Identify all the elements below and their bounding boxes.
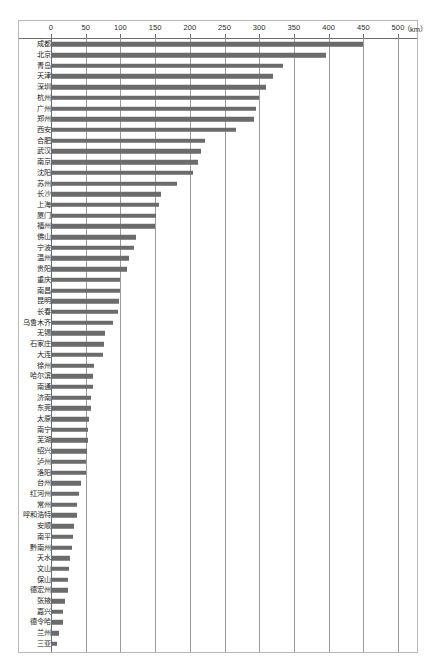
category-label: 郑州 bbox=[37, 116, 51, 123]
bar bbox=[51, 460, 86, 464]
category-label: 佛山 bbox=[37, 233, 51, 240]
category-label: 沈阳 bbox=[37, 169, 51, 176]
x-tickmark-250 bbox=[225, 34, 226, 38]
x-tickmark-200 bbox=[190, 34, 191, 38]
bar bbox=[51, 224, 155, 228]
category-label: 南京 bbox=[37, 159, 51, 166]
chart-row: 保山 bbox=[19, 574, 417, 585]
category-label: 杭州 bbox=[37, 94, 51, 101]
plot-area: 成都北京青岛天津深圳杭州广州郑州西安合肥武汉南京沈阳苏州长沙上海厦门福州佛山宁波… bbox=[19, 38, 417, 652]
x-tickmark-400 bbox=[329, 34, 330, 38]
chart-row: 乌鲁木齐 bbox=[19, 317, 417, 328]
x-tick-label-150: 150 bbox=[149, 23, 162, 32]
bar bbox=[51, 556, 70, 560]
bar bbox=[51, 374, 93, 378]
x-tickmark-0 bbox=[51, 34, 52, 38]
category-label: 无锡 bbox=[37, 330, 51, 337]
chart-row: 台州 bbox=[19, 478, 417, 489]
chart-row: 南宁 bbox=[19, 424, 417, 435]
chart-row: 武汉 bbox=[19, 146, 417, 157]
chart-row: 苏州 bbox=[19, 178, 417, 189]
chart-row: 郑州 bbox=[19, 114, 417, 125]
bar bbox=[51, 470, 86, 474]
category-label: 长春 bbox=[37, 308, 51, 315]
bar bbox=[51, 481, 81, 485]
bar bbox=[51, 128, 236, 132]
category-label: 深圳 bbox=[37, 84, 51, 91]
chart-row: 重庆 bbox=[19, 275, 417, 286]
chart-row: 德宏州 bbox=[19, 585, 417, 596]
bar bbox=[51, 117, 254, 121]
chart-row: 杭州 bbox=[19, 93, 417, 104]
category-label: 哈尔滨 bbox=[30, 373, 51, 380]
bar bbox=[51, 64, 283, 68]
chart-row: 大连 bbox=[19, 349, 417, 360]
category-label: 南平 bbox=[37, 533, 51, 540]
x-tick-label-300: 300 bbox=[253, 23, 266, 32]
x-tickmark-100 bbox=[120, 34, 121, 38]
category-label: 红河州 bbox=[30, 490, 51, 497]
bar bbox=[51, 406, 91, 410]
bar bbox=[51, 213, 156, 217]
bar bbox=[51, 53, 326, 57]
category-label: 北京 bbox=[37, 51, 51, 58]
bar bbox=[51, 235, 136, 239]
x-tick-label-200: 200 bbox=[183, 23, 196, 32]
chart-row: 南京 bbox=[19, 157, 417, 168]
category-label: 南昌 bbox=[37, 287, 51, 294]
chart-row: 合肥 bbox=[19, 135, 417, 146]
bar bbox=[51, 438, 88, 442]
category-label: 安顺 bbox=[37, 523, 51, 530]
category-label: 大连 bbox=[37, 351, 51, 358]
bar bbox=[51, 599, 65, 603]
category-label: 台州 bbox=[37, 480, 51, 487]
x-axis-tick-labels: 050100150200250300350400450500（km） bbox=[19, 21, 417, 38]
bar bbox=[51, 42, 363, 46]
chart-row: 石家庄 bbox=[19, 339, 417, 350]
bar bbox=[51, 363, 94, 367]
bar bbox=[51, 395, 91, 399]
bar bbox=[51, 74, 273, 78]
chart-row: 东莞 bbox=[19, 403, 417, 414]
category-label: 南通 bbox=[37, 383, 51, 390]
category-label: 石家庄 bbox=[30, 341, 51, 348]
bar bbox=[51, 331, 105, 335]
chart-row: 上海 bbox=[19, 200, 417, 211]
x-tick-label-50: 50 bbox=[81, 23, 90, 32]
category-label: 绍兴 bbox=[37, 448, 51, 455]
chart-row: 呼和浩特 bbox=[19, 510, 417, 521]
category-label: 武汉 bbox=[37, 148, 51, 155]
category-label: 德令哈 bbox=[30, 619, 51, 626]
x-tick-label-450: 450 bbox=[357, 23, 370, 32]
bar bbox=[51, 535, 73, 539]
x-tick-label-100: 100 bbox=[114, 23, 127, 32]
chart-frame: 050100150200250300350400450500（km） 成都北京青… bbox=[18, 20, 418, 653]
bar bbox=[51, 631, 59, 635]
chart-row: 宁波 bbox=[19, 242, 417, 253]
category-label: 合肥 bbox=[37, 137, 51, 144]
bar bbox=[51, 85, 266, 89]
chart-row: 南通 bbox=[19, 382, 417, 393]
bar bbox=[51, 342, 104, 346]
bar bbox=[51, 256, 129, 260]
chart-row: 哈尔滨 bbox=[19, 371, 417, 382]
chart-row: 北京 bbox=[19, 50, 417, 61]
bar bbox=[51, 192, 161, 196]
x-tick-label-250: 250 bbox=[218, 23, 231, 32]
bar bbox=[51, 577, 68, 581]
bar bbox=[51, 203, 159, 207]
bar bbox=[51, 610, 63, 614]
category-label: 昆明 bbox=[37, 298, 51, 305]
category-label: 西安 bbox=[37, 126, 51, 133]
bar bbox=[51, 106, 256, 110]
chart-row: 天水 bbox=[19, 553, 417, 564]
chart-row: 嘉兴 bbox=[19, 606, 417, 617]
chart-row: 深圳 bbox=[19, 82, 417, 93]
category-label: 呼和浩特 bbox=[23, 512, 51, 519]
chart-row: 温州 bbox=[19, 253, 417, 264]
chart-row: 南平 bbox=[19, 531, 417, 542]
chart-row: 贵阳 bbox=[19, 264, 417, 275]
chart-row: 安顺 bbox=[19, 521, 417, 532]
bar bbox=[51, 642, 57, 646]
bar bbox=[51, 502, 77, 506]
